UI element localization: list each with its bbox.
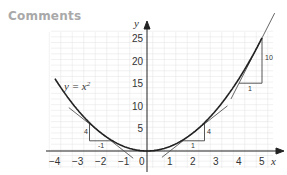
grid	[49, 31, 273, 168]
x-tick-label: 2	[190, 156, 196, 167]
curve-label: y = x2	[63, 80, 91, 92]
y-tick-label: 10	[132, 101, 144, 112]
x-tick-label: 3	[213, 156, 219, 167]
x-axis-label: x	[270, 155, 276, 167]
y-tick-label: 5	[137, 123, 143, 134]
y-axis-arrow-icon	[144, 21, 150, 29]
x-tick-label: −3	[72, 156, 84, 167]
x-tick-label: −1	[118, 156, 130, 167]
parabola-chart: −4−3−2−1012345 510152025 x y 4 -1 4 1 10…	[0, 0, 287, 175]
top-rise-label: 10	[265, 54, 273, 61]
x-tick-label: 5	[259, 156, 265, 167]
right-run-label: 1	[191, 142, 195, 149]
x-tick-label: 1	[167, 156, 173, 167]
x-tick-label: −2	[95, 156, 107, 167]
top-run-label: 1	[248, 85, 252, 92]
x-tick-label: 0	[139, 156, 145, 167]
y-tick-label: 15	[132, 78, 144, 89]
x-tick-label: 4	[236, 156, 242, 167]
y-tick-label: 25	[132, 33, 144, 44]
left-run-label: -1	[98, 142, 104, 149]
x-tick-label: −4	[49, 156, 61, 167]
axes	[46, 21, 284, 172]
right-rise-label: 4	[207, 128, 211, 135]
tangent-lines	[69, 13, 275, 158]
x-axis-arrow-icon	[276, 148, 284, 154]
y-axis-label: y	[133, 17, 139, 29]
y-tick-label: 20	[132, 56, 144, 67]
left-rise-label: 4	[84, 128, 88, 135]
x-tick-labels: −4−3−2−1012345	[49, 156, 265, 167]
